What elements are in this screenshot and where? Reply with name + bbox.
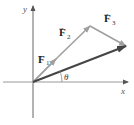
x-axis-label: x [120,86,125,96]
label-f2: → F 2 [58,24,71,41]
vector-diagram: y x θ → F 1 → F 2 [0,0,134,125]
svg-text:2: 2 [67,33,71,41]
svg-text:3: 3 [112,19,116,27]
label-f1: → F 1 [37,52,50,67]
label-f3: → F 3 [103,10,116,27]
svg-text:F: F [38,53,45,65]
svg-text:F: F [59,26,66,38]
y-axis-label: y [22,4,27,14]
vector-f3 [90,26,126,46]
svg-text:F: F [104,12,111,24]
angle-arc [60,71,62,82]
angle-theta-label: θ [64,72,69,82]
svg-text:1: 1 [46,59,50,67]
